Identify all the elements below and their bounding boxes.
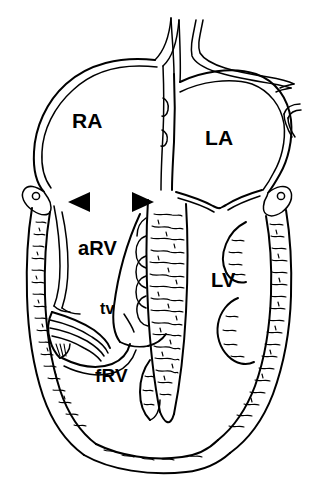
heart-anatomy-drawing: .ln{fill:none;stroke:#000;stroke-width:2… [0,0,314,489]
canvas-background [0,0,314,489]
label-functional-right-ventricle: fRV [95,366,128,385]
left-circumflex-artery-lumen [277,192,284,199]
label-right-atrium: RA [72,110,103,131]
label-tricuspid-valve: tv [100,301,115,317]
label-left-atrium: LA [205,127,233,148]
label-left-ventricle: LV [211,270,235,290]
right-coronary-artery-lumen [32,192,39,199]
heart-diagram-figure: .ln{fill:none;stroke:#000;stroke-width:2… [0,0,314,489]
label-atrialized-right-ventricle: aRV [78,238,117,258]
